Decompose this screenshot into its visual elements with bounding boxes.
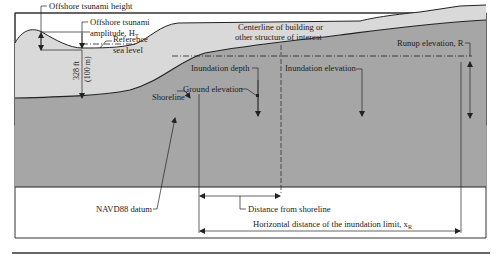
label-runup-elevation: Runup elevation, R bbox=[397, 38, 464, 48]
label-reference-1: Reference bbox=[113, 34, 148, 44]
label-centerline-2: other structure of interest bbox=[235, 32, 322, 42]
label-centerline-1: Centerline of building or bbox=[238, 22, 323, 32]
label-offshore-amplitude-1: Offshore tsunami bbox=[90, 17, 150, 27]
label-navd88: NAVD88 datum bbox=[96, 204, 152, 214]
label-shoreline: Shoreline bbox=[152, 92, 185, 102]
label-inundation-depth: Inundation depth bbox=[191, 63, 250, 73]
label-horizontal-distance: Horizontal distance of the inundation li… bbox=[253, 219, 412, 230]
label-depth-dimension-metric: (100 m) bbox=[83, 56, 92, 82]
label-depth-dimension: 328 ft bbox=[72, 60, 81, 80]
tsunami-inundation-diagram: Offshore tsunami height Offshore tsunami… bbox=[0, 0, 498, 260]
label-ground-elevation: Ground elevation bbox=[183, 84, 244, 94]
label-distance-from-shoreline: Distance from shoreline bbox=[248, 204, 331, 214]
label-inundation-elevation: Inundation elevation bbox=[285, 63, 357, 73]
label-offshore-tsunami-height: Offshore tsunami height bbox=[49, 1, 133, 11]
label-reference-2: sea level bbox=[113, 45, 143, 55]
